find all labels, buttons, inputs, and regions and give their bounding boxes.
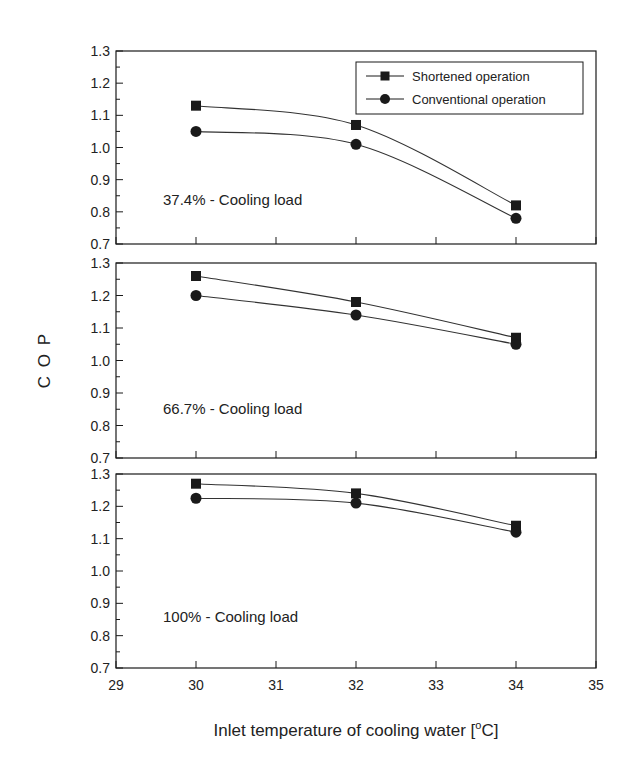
circle-marker-icon bbox=[191, 290, 202, 301]
circle-marker-icon bbox=[511, 213, 522, 224]
chart-panels: 0.70.80.91.01.11.21.337.4% - Cooling loa… bbox=[91, 43, 604, 693]
x-tick-label: 30 bbox=[188, 677, 204, 693]
square-marker-icon bbox=[191, 479, 201, 489]
x-tick-label: 34 bbox=[508, 677, 524, 693]
x-tick-label: 33 bbox=[428, 677, 444, 693]
y-tick-label: 1.2 bbox=[91, 288, 111, 304]
y-tick-label: 0.9 bbox=[91, 595, 111, 611]
square-marker-icon bbox=[351, 488, 361, 498]
y-tick-label: 1.3 bbox=[91, 255, 111, 271]
y-tick-label: 1.2 bbox=[91, 75, 111, 91]
y-tick-label: 1.0 bbox=[91, 563, 111, 579]
x-tick-label: 29 bbox=[108, 677, 124, 693]
panel-label: 100% - Cooling load bbox=[163, 608, 298, 625]
y-tick-label: 0.8 bbox=[91, 204, 111, 220]
y-tick-label: 1.3 bbox=[91, 43, 111, 59]
circle-marker-icon bbox=[511, 339, 522, 350]
x-tick-label: 32 bbox=[348, 677, 364, 693]
y-tick-label: 1.0 bbox=[91, 140, 111, 156]
plot-frame bbox=[116, 263, 596, 458]
circle-marker-icon bbox=[191, 493, 202, 504]
y-tick-label: 1.2 bbox=[91, 498, 111, 514]
square-marker-icon bbox=[191, 101, 201, 111]
y-tick-label: 0.8 bbox=[91, 628, 111, 644]
y-axis-title: C O P bbox=[35, 332, 54, 388]
square-marker-icon bbox=[511, 200, 521, 210]
y-tick-label: 0.7 bbox=[91, 660, 111, 676]
legend-label-shortened: Shortened operation bbox=[412, 69, 530, 84]
circle-marker-icon bbox=[351, 139, 362, 150]
y-tick-label: 1.1 bbox=[91, 531, 111, 547]
y-tick-label: 1.1 bbox=[91, 320, 111, 336]
circle-marker-icon bbox=[351, 498, 362, 509]
circle-marker-icon bbox=[191, 126, 202, 137]
legend-label-conventional: Conventional operation bbox=[412, 92, 546, 107]
circle-marker-icon bbox=[351, 310, 362, 321]
panel-label: 66.7% - Cooling load bbox=[163, 400, 302, 417]
y-tick-label: 0.8 bbox=[91, 418, 111, 434]
y-tick-label: 1.3 bbox=[91, 466, 111, 482]
y-tick-label: 0.9 bbox=[91, 172, 111, 188]
square-marker-icon bbox=[381, 72, 390, 81]
chart-panel-2: 0.70.80.91.01.11.21.366.7% - Cooling loa… bbox=[91, 255, 596, 466]
y-tick-label: 1.0 bbox=[91, 353, 111, 369]
chart-panel-3: 0.70.80.91.01.11.21.329303132333435100% … bbox=[91, 466, 604, 693]
square-marker-icon bbox=[351, 120, 361, 130]
square-marker-icon bbox=[191, 271, 201, 281]
circle-marker-icon bbox=[380, 94, 390, 104]
y-tick-label: 0.7 bbox=[91, 450, 111, 466]
x-tick-label: 35 bbox=[588, 677, 604, 693]
x-axis-title-main: Inlet temperature of cooling water [ bbox=[214, 721, 476, 740]
y-tick-label: 0.7 bbox=[91, 236, 111, 252]
x-axis-title-unit: C] bbox=[481, 721, 498, 740]
square-marker-icon bbox=[351, 297, 361, 307]
x-tick-label: 31 bbox=[268, 677, 284, 693]
cop-chart: 0.70.80.91.01.11.21.337.4% - Cooling loa… bbox=[0, 0, 638, 774]
y-tick-label: 1.1 bbox=[91, 107, 111, 123]
circle-marker-icon bbox=[511, 527, 522, 538]
x-axis-title: Inlet temperature of cooling water [oC] bbox=[214, 719, 499, 740]
legend: Shortened operation Conventional operati… bbox=[356, 62, 583, 114]
y-tick-label: 0.9 bbox=[91, 385, 111, 401]
panel-label: 37.4% - Cooling load bbox=[163, 191, 302, 208]
